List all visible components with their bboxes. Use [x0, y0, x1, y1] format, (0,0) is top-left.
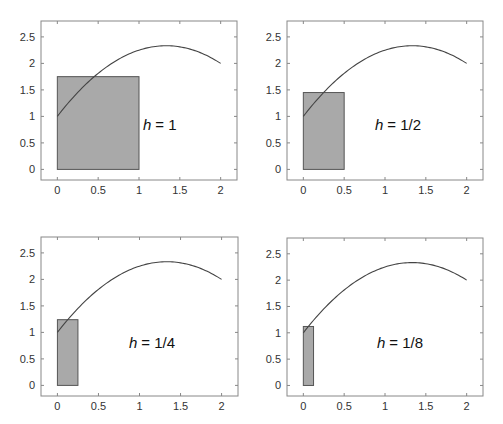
x-tick-label: 1: [382, 400, 388, 412]
step-size-label: h= 1/8: [377, 334, 423, 351]
approximation-rectangle: [303, 326, 313, 385]
y-tick-label: 1.5: [266, 300, 281, 312]
h-value: = 1/8: [389, 334, 423, 351]
x-tick-label: 1.5: [418, 400, 433, 412]
y-tick-label: 0: [275, 379, 281, 391]
x-tick-label: 0: [300, 400, 306, 412]
y-tick-label: 2.5: [266, 248, 281, 260]
y-tick-label: 1: [275, 327, 281, 339]
x-tick-label: 2: [464, 400, 470, 412]
chart-panel-4: 00.511.5200.511.522.5h= 1/8: [0, 0, 503, 424]
function-curve: [303, 263, 466, 333]
y-tick-label: 2: [275, 274, 281, 286]
h-symbol: h: [377, 334, 385, 351]
y-tick-label: 0.5: [266, 353, 281, 365]
x-tick-label: 0.5: [337, 400, 352, 412]
